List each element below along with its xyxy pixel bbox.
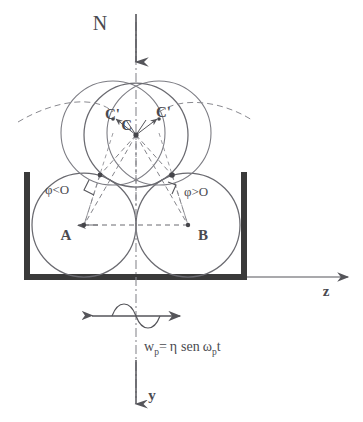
label-angle-left: φ<O [45, 182, 69, 197]
label-angle-right: φ>O [184, 184, 208, 199]
label-sphere-B: B [198, 227, 208, 243]
oscillation-formula: wp=ηsenωpt [144, 339, 221, 357]
label-C-prime-left: C' [105, 106, 120, 122]
precession-arc [18, 102, 252, 122]
arrow-C-to-Cprime-right [136, 119, 157, 135]
formula-eta: η [170, 339, 177, 354]
label-z-axis: z [323, 283, 330, 299]
precession-arc-right [159, 102, 252, 120]
label-C-prime-right: C' [156, 104, 171, 120]
mechanics-diagram: N C' C C' φ<O φ>O A B z y wp=ηsenωpt [0, 0, 363, 422]
formula-text: wp=ηsenωpt [144, 339, 221, 357]
container-left-wall [24, 172, 30, 280]
label-sphere-A: A [61, 227, 72, 243]
node-A [82, 223, 86, 227]
node-C [133, 132, 138, 137]
node-B [186, 223, 190, 227]
formula-equals: = [159, 339, 167, 354]
formula-t: t [217, 339, 221, 354]
formula-sen: sen [181, 339, 200, 354]
right-angle-mark-left [84, 180, 94, 195]
formula-omega: ω [203, 339, 212, 354]
figure-root: N C' C C' φ<O φ>O A B z y wp=ηsenωpt [0, 0, 363, 422]
line-C-to-contact-left [100, 135, 136, 175]
node-contact-right [169, 172, 175, 178]
container-right-wall [241, 172, 247, 280]
label-N: N [93, 12, 107, 34]
node-contact-left [98, 173, 103, 178]
line-C-to-contact-right [136, 135, 172, 175]
label-C-center: C [121, 117, 132, 133]
label-y-axis: y [148, 387, 156, 403]
tick-C-center [136, 120, 146, 135]
